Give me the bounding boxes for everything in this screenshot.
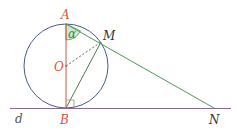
diagram-svg: A α M O B d N xyxy=(0,0,237,130)
segment-bm xyxy=(66,42,101,108)
label-b: B xyxy=(59,113,69,127)
geometry-diagram: A α M O B d N xyxy=(0,0,237,130)
label-o: O xyxy=(54,60,64,74)
label-alpha: α xyxy=(68,27,76,41)
label-d: d xyxy=(15,112,23,126)
label-n: N xyxy=(208,113,220,127)
point-o xyxy=(65,65,67,67)
label-m: M xyxy=(102,29,116,43)
label-a: A xyxy=(60,8,70,22)
segment-om-dashed xyxy=(66,42,101,66)
